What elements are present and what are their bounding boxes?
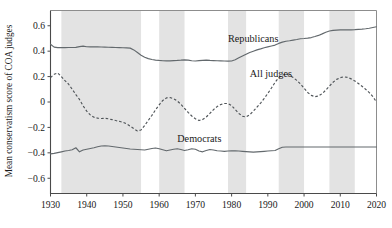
x-tick-label: 1990 [258, 199, 277, 210]
x-tick-label: 1950 [113, 199, 132, 210]
shaded-band [329, 11, 354, 194]
series-label-republicans: Republicans [228, 33, 278, 44]
series-label-democrats: Democrats [177, 133, 221, 144]
shaded-band [279, 11, 304, 194]
chart-figure: 0.60.40.20−0.2−0.4−0.6193019401950196019… [0, 0, 392, 228]
x-tick-label: 1940 [77, 199, 96, 210]
x-tick-label: 1970 [186, 199, 205, 210]
x-tick-label: 2010 [331, 199, 350, 210]
x-tick-label: 1930 [41, 199, 60, 210]
y-tick-label: −0.6 [28, 173, 46, 184]
y-axis-title: Mean conservatism score of COA judges [4, 24, 14, 177]
y-tick-label: −0.4 [28, 147, 46, 158]
x-tick-label: 1980 [222, 199, 241, 210]
x-tick-label: 1960 [150, 199, 169, 210]
conservatism-score-line-chart: 0.60.40.20−0.2−0.4−0.6193019401950196019… [0, 0, 392, 228]
y-tick-label: 0.2 [33, 71, 45, 82]
y-tick-label: −0.2 [28, 122, 46, 133]
series-label-all-judges: All judges [250, 68, 292, 79]
shaded-band [61, 11, 141, 194]
y-tick-label: 0.4 [33, 45, 45, 56]
x-tick-label: 2020 [367, 199, 386, 210]
x-tick-label: 2000 [294, 199, 313, 210]
y-tick-label: 0.6 [33, 20, 45, 31]
y-tick-label: 0 [40, 96, 45, 107]
shaded-band [159, 11, 184, 194]
